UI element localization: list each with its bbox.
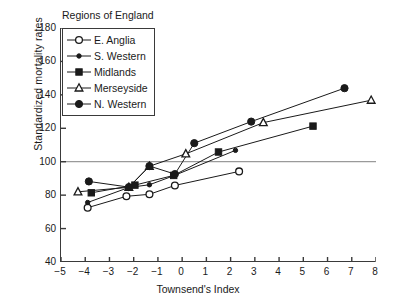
data-point-n-western-5: [248, 118, 255, 125]
legend-title: Regions of England: [62, 9, 154, 21]
y-tick-100: 100: [22, 157, 56, 167]
chart-container: Regions of England Standardized mortalit…: [0, 0, 396, 307]
series-line-s-western: [88, 150, 236, 202]
data-point-s-western-2: [147, 183, 151, 187]
y-tick-40: 40: [22, 257, 56, 267]
chart-legend: E. AngliaS. WesternMidlandsMerseysideN. …: [62, 28, 155, 116]
legend-item-n-western[interactable]: N. Western: [66, 96, 148, 112]
y-tick-60: 60: [22, 224, 56, 234]
data-point-e-anglia-4: [236, 168, 243, 175]
x-tick-3: 3: [242, 267, 266, 277]
legend-label-midlands: Midlands: [92, 66, 136, 78]
data-point-n-western-4: [191, 140, 198, 147]
x-tick-6: 6: [315, 267, 339, 277]
x-tick--5: −5: [48, 267, 72, 277]
x-axis-tick-labels: −5−4−3−2−1012345678: [60, 267, 375, 281]
data-point-midlands-0: [88, 190, 94, 196]
legend-marker-open-circle-icon: [66, 32, 92, 48]
x-tick-8: 8: [363, 267, 387, 277]
x-tick--1: −1: [145, 267, 169, 277]
data-point-midlands-4: [310, 123, 316, 129]
legend-item-midlands[interactable]: Midlands: [66, 64, 148, 80]
y-tick-180: 180: [22, 23, 56, 33]
x-tick-0: 0: [169, 267, 193, 277]
legend-label-merseyside: Merseyside: [92, 82, 148, 94]
legend-key-marker: [77, 54, 81, 58]
data-point-n-western-6: [341, 85, 348, 92]
legend-marker-small-filled-circle-icon: [66, 48, 92, 64]
x-tick-4: 4: [266, 267, 290, 277]
y-tick-140: 140: [22, 90, 56, 100]
x-axis-title: Townsend's Index: [0, 283, 396, 295]
y-tick-120: 120: [22, 123, 56, 133]
data-point-n-western-0: [85, 178, 92, 185]
data-point-midlands-3: [215, 149, 221, 155]
y-axis-tick-labels: 406080100120140160180: [18, 28, 56, 262]
x-tick--2: −2: [121, 267, 145, 277]
x-tick-7: 7: [339, 267, 363, 277]
x-tick--4: −4: [72, 267, 96, 277]
legend-marker-filled-circle-icon: [66, 96, 92, 112]
legend-key-marker: [76, 69, 82, 75]
legend-item-merseyside[interactable]: Merseyside: [66, 80, 148, 96]
legend-label-n-western: N. Western: [92, 98, 146, 110]
data-point-s-western-0: [85, 200, 89, 204]
data-point-n-western-1: [125, 184, 132, 191]
x-tick-5: 5: [290, 267, 314, 277]
legend-key-marker: [75, 84, 83, 91]
legend-label-s-western: S. Western: [92, 50, 146, 62]
legend-item-s-western[interactable]: S. Western: [66, 48, 148, 64]
x-tick-2: 2: [218, 267, 242, 277]
x-tick--3: −3: [96, 267, 120, 277]
x-tick-1: 1: [193, 267, 217, 277]
data-point-e-anglia-0: [84, 204, 91, 211]
data-point-merseyside-5: [367, 96, 375, 103]
y-tick-80: 80: [22, 190, 56, 200]
data-point-e-anglia-3: [171, 182, 178, 189]
y-tick-160: 160: [22, 56, 56, 66]
data-point-s-western-4: [233, 148, 237, 152]
data-point-n-western-2: [146, 162, 153, 169]
data-point-e-anglia-1: [123, 193, 130, 200]
legend-item-e-anglia[interactable]: E. Anglia: [66, 32, 148, 48]
legend-marker-open-triangle-icon: [66, 80, 92, 96]
legend-key-marker: [75, 100, 82, 107]
legend-label-e-anglia: E. Anglia: [92, 34, 135, 46]
data-point-e-anglia-2: [146, 191, 153, 198]
data-point-n-western-3: [171, 170, 178, 177]
legend-key-marker: [76, 37, 83, 44]
legend-marker-filled-square-icon: [66, 64, 92, 80]
series-line-midlands: [91, 126, 313, 193]
